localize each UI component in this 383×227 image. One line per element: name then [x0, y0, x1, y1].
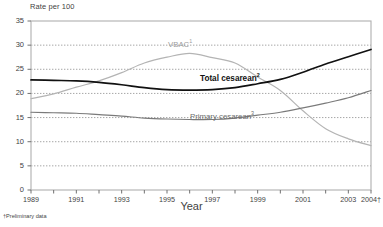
- y-axis-label: Rate per 100: [30, 2, 75, 11]
- gridlines: [31, 45, 371, 166]
- series-label-total-cesarean: Total cesarean2: [200, 74, 260, 83]
- y-tick-label: 5: [2, 161, 24, 170]
- y-tick-label: 0: [2, 185, 24, 194]
- y-tick-label: 25: [2, 64, 24, 73]
- series-label-total-text: Total cesarean: [200, 74, 257, 83]
- y-tick-label: 10: [2, 137, 24, 146]
- y-tick-label: 35: [2, 16, 24, 25]
- y-tick-label: 30: [2, 40, 24, 49]
- series-label-vbac-superscript: 1: [189, 38, 192, 44]
- plot-frame: [31, 21, 371, 190]
- series-label-primary-superscript: 3: [251, 110, 254, 116]
- x-axis-title: Year: [0, 200, 383, 212]
- chart-footnote: †Preliminary data: [3, 213, 47, 219]
- series-label-primary-cesarean: Primary cesarean3: [190, 112, 254, 121]
- y-tick-label: 20: [2, 88, 24, 97]
- chart-figure: Rate per 100 05101520253035 198919911993…: [0, 0, 383, 227]
- axis-ticks: [28, 21, 372, 194]
- series-label-vbac: VBAC1: [168, 40, 192, 49]
- y-tick-label: 15: [2, 113, 24, 122]
- series-label-vbac-text: VBAC: [168, 40, 189, 49]
- series-lines: [31, 49, 371, 145]
- series-label-total-superscript: 2: [257, 72, 260, 78]
- series-label-primary-text: Primary cesarean: [190, 112, 251, 121]
